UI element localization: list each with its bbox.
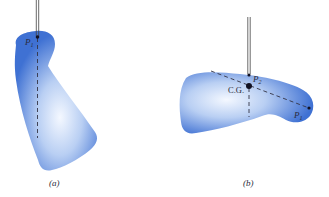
caption-b: (b) (243, 178, 254, 188)
point-p1-a (36, 35, 40, 39)
center-of-gravity-dot (246, 83, 252, 89)
point-p2 (247, 73, 250, 76)
panel-b: P2 C.G. P1 (b) (180, 17, 314, 188)
panel-a: P1 (a) (15, 0, 97, 188)
label-cg: C.G. (228, 85, 244, 95)
irregular-body-b (180, 72, 314, 133)
center-of-gravity-figure: P1 (a) P2 C.G. P1 (b) (0, 0, 329, 197)
irregular-body-a (15, 31, 97, 171)
point-p1-b (307, 106, 310, 109)
caption-a: (a) (49, 178, 60, 188)
label-p2: P2 (252, 74, 262, 85)
